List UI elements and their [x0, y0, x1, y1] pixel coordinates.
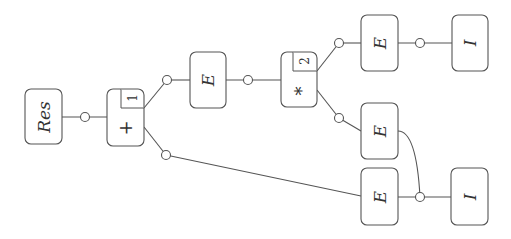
edge-star-e3 — [317, 90, 339, 118]
node-res: Res — [25, 89, 62, 144]
edge-star-e2 — [317, 43, 339, 71]
node-e4: E — [361, 168, 398, 225]
node-plus: 1 + — [107, 89, 144, 146]
node-plus-index: 1 — [126, 94, 140, 102]
node-e3-label: E — [370, 124, 390, 138]
node-star: 2 * — [281, 52, 317, 107]
node-e2-label: E — [370, 36, 390, 50]
junction-e2-i1 — [416, 39, 425, 48]
node-e1-label: E — [198, 73, 218, 87]
node-i2: I — [451, 168, 488, 225]
junction-e1-star — [244, 76, 253, 85]
node-plus-label: + — [115, 120, 136, 135]
node-i1: I — [452, 15, 488, 71]
junction-plus-bottom — [162, 151, 171, 160]
junction-star-top — [335, 39, 344, 48]
node-e3: E — [361, 103, 398, 159]
junction-plus-top — [163, 76, 172, 85]
node-i1-label: I — [460, 39, 480, 47]
node-e4-label: E — [370, 190, 390, 204]
junction-star-bottom — [335, 114, 344, 123]
edge-plus-e1 — [144, 80, 167, 108]
node-res-label: Res — [34, 101, 54, 134]
expression-tree-diagram: Res 1 + E 2 * E I E E I — [0, 0, 511, 239]
junction-shared-i2 — [416, 193, 425, 202]
node-i2-label: I — [460, 193, 480, 201]
node-star-label: * — [291, 87, 312, 96]
junction-res-plus — [81, 113, 90, 122]
edge-plus-e4 — [144, 127, 166, 155]
node-e1: E — [190, 52, 226, 108]
node-e2: E — [361, 15, 398, 71]
node-star-index: 2 — [298, 57, 312, 65]
edge-plus-e4-b — [166, 155, 361, 196]
edge-e3-i2-curve — [398, 131, 420, 197]
